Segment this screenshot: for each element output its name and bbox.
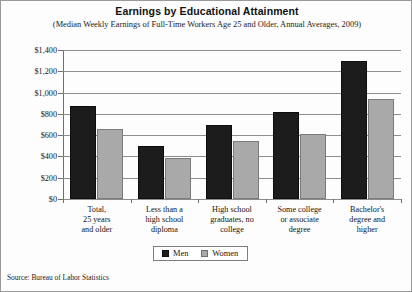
bar-men [273, 112, 299, 199]
source-note: Source: Bureau of Labor Statistics [7, 273, 109, 282]
category-label-line: High school [198, 205, 266, 215]
x-axis-tick-mark [333, 199, 334, 203]
legend-item-women: Women [201, 249, 238, 258]
bar-women [233, 141, 259, 199]
category-label-line: Some college [266, 205, 334, 215]
chart-legend: MenWomen [153, 246, 248, 261]
category-label-line: degree and [333, 215, 401, 225]
bar-women [368, 99, 394, 199]
category-label-line: graduates, no [198, 215, 266, 225]
bar-women [300, 134, 326, 199]
x-axis-tick-mark [266, 199, 267, 203]
category-label-line: Less than a [131, 205, 199, 215]
category-label-line: and older [63, 225, 131, 235]
category-label-line: diploma [131, 225, 199, 235]
legend-label: Women [212, 249, 238, 258]
chart-figure: Earnings by Educational Attainment (Medi… [0, 0, 412, 292]
y-axis-tick-label: $800 [0, 109, 57, 118]
category-label-line: Bachelor's [333, 205, 401, 215]
gridline [63, 199, 401, 200]
category-label-line: or associate [266, 215, 334, 225]
x-axis-category-label: Total,25 yearsand older [63, 205, 131, 234]
y-axis-tick-label: $1,400 [0, 46, 57, 55]
x-axis-category-label: High schoolgraduates, nocollege [198, 205, 266, 234]
category-label-line: college [198, 225, 266, 235]
y-axis-tick-label: $400 [0, 152, 57, 161]
legend-swatch-icon [201, 250, 208, 257]
y-axis-tick-label: $1,200 [0, 67, 57, 76]
x-axis-tick-mark [401, 199, 402, 203]
x-axis-tick-mark [63, 199, 64, 203]
x-axis-category-label: Bachelor'sdegree andhigher [333, 205, 401, 234]
chart-subtitle: (Median Weekly Earnings of Full-Time Wor… [1, 20, 412, 29]
bar-men [341, 61, 367, 199]
legend-label: Men [173, 249, 188, 258]
bar-men [206, 125, 232, 200]
category-label-line: 25 years [63, 215, 131, 225]
gridline [63, 50, 401, 51]
legend-swatch-icon [162, 250, 169, 257]
bar-men [138, 146, 164, 199]
plot-area [63, 50, 401, 199]
x-axis-category-label: Less than ahigh schooldiploma [131, 205, 199, 234]
bar-women [97, 129, 123, 199]
x-axis-tick-mark [198, 199, 199, 203]
bar-women [165, 158, 191, 200]
x-axis-tick-mark [131, 199, 132, 203]
category-label-line: high school [131, 215, 199, 225]
chart-title: Earnings by Educational Attainment [1, 5, 412, 17]
category-label-line: degree [266, 225, 334, 235]
category-label-line: higher [333, 225, 401, 235]
category-label-line: Total, [63, 205, 131, 215]
bar-men [70, 106, 96, 199]
x-axis-category-label: Some collegeor associatedegree [266, 205, 334, 234]
y-axis-tick-label: $1,000 [0, 88, 57, 97]
y-axis-tick-label: $600 [0, 131, 57, 140]
y-axis-tick-label: $0 [0, 195, 57, 204]
legend-item-men: Men [162, 249, 188, 258]
y-axis-tick-label: $200 [0, 173, 57, 182]
